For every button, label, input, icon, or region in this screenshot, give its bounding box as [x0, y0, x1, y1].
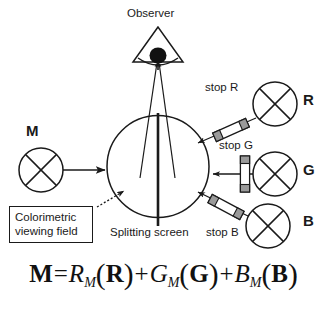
equation-term-0-coefficient: R [69, 260, 84, 287]
equation-term-1-open-paren: ( [179, 258, 189, 290]
eye-filled-circle-icon [150, 48, 167, 64]
equation-term-0-close-paren: ) [124, 258, 134, 290]
optical-stop-bar-g [240, 156, 249, 192]
equation-term-1-subscript: M [168, 275, 180, 290]
equation-term-0-subscript: M [84, 275, 96, 290]
stop-b-label: stop B [206, 226, 239, 238]
equation-term-2-subscript: M [250, 275, 262, 290]
colorimetry-apparatus-figure: Observer stop R stop G stop B Splitting … [0, 0, 327, 313]
colorimetric-viewing-field-callout: Colorimetric viewing field [9, 206, 93, 243]
equation-term-0-vector: R [106, 260, 124, 287]
equation-plus-1: + [134, 260, 150, 287]
equation-term-1-vector: G [189, 260, 208, 287]
equation-equals: = [53, 260, 69, 287]
equation-term-2-coefficient: B [235, 260, 250, 287]
source-label-r: R [303, 92, 314, 108]
optical-stop-bar-b [208, 194, 244, 219]
equation-lhs: M [29, 260, 53, 287]
source-label-g: G [303, 162, 315, 178]
equation-term-1-coefficient: G [150, 260, 168, 287]
splitting-screen-label: Splitting screen [110, 226, 189, 238]
source-label-b: B [303, 213, 314, 229]
colorimetric-line-2: viewing field [15, 224, 87, 238]
trichromatic-match-equation: M=RM(R)+GM(G)+BM(B) [0, 258, 327, 291]
colorimetric-line-1: Colorimetric [15, 210, 87, 224]
equation-term-1-close-paren: ) [209, 258, 219, 290]
equation-term-2-vector: B [271, 260, 288, 287]
stop-g-label: stop G [219, 139, 253, 151]
source-label-m: M [26, 123, 39, 139]
equation-plus-2: + [218, 260, 234, 287]
equation-term-0-open-paren: ( [96, 258, 106, 290]
observer-label: Observer [127, 7, 174, 19]
stop-r-label: stop R [205, 81, 238, 93]
equation-term-2-open-paren: ( [262, 258, 272, 290]
equation-term-2-close-paren: ) [288, 258, 298, 290]
